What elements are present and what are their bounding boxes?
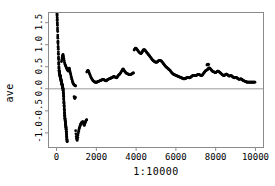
x-tick-label: 10000: [230, 152, 275, 162]
y-tick-label: 1.5: [34, 5, 44, 39]
data-layer: [49, 13, 263, 147]
plot-area: [48, 12, 264, 148]
y-axis-title-text: ave: [4, 84, 15, 103]
series-ave-points: [56, 13, 257, 143]
y-axis-title: ave: [0, 0, 18, 186]
scatter-plot-figure: ave 1:10000 0200040006000800010000-1.0-0…: [0, 0, 275, 186]
x-axis-title: 1:10000: [48, 166, 264, 177]
x-axis-title-text: 1:10000: [133, 166, 179, 177]
